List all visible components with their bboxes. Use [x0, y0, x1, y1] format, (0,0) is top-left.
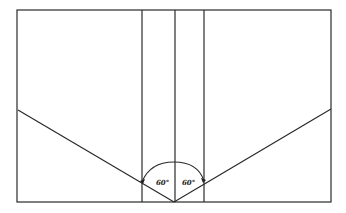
right-ray [174, 109, 331, 202]
left-ray [18, 110, 174, 202]
angle-label-right: 60° [182, 178, 195, 187]
angle-label-left: 60° [156, 178, 169, 187]
outer-frame [17, 10, 331, 202]
angle-diagram: 60° 60° [0, 0, 346, 213]
